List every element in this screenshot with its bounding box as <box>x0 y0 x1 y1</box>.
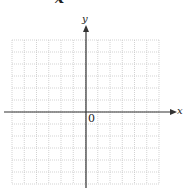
x-axis-label: x <box>177 106 183 116</box>
y-axis-arrow-icon <box>83 25 89 32</box>
coordinate-grid <box>0 0 186 188</box>
origin-label: 0 <box>88 113 95 124</box>
y-axis-label: y <box>82 14 88 24</box>
x-axis-arrow-icon <box>170 109 177 115</box>
